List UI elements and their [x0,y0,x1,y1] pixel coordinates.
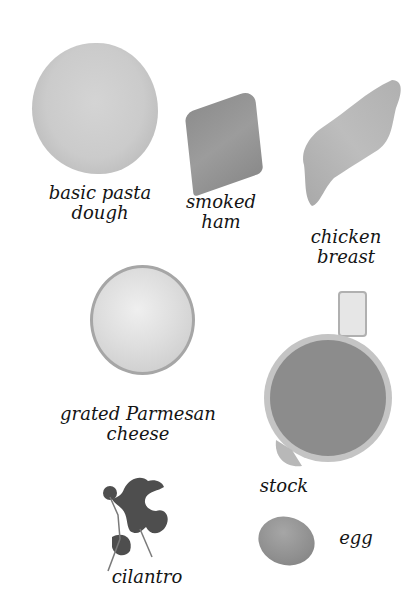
chicken-breast-image [296,80,406,210]
pasta-dough-label: basic pasta dough [20,183,180,223]
egg-label: egg [336,528,376,548]
cilantro-label: cilantro [102,567,192,587]
stock-label: stock [252,476,316,496]
pasta-dough-image [32,43,158,174]
smoked-ham-image [185,89,264,197]
egg-image [252,509,321,572]
parmesan-image [90,265,195,375]
chicken-breast-label: chicken breast [296,227,396,267]
stock-jug-image [262,290,394,472]
cilantro-image [100,475,180,575]
parmesan-label: grated Parmesan cheese [38,404,238,444]
smoked-ham-label: smoked ham [176,192,266,232]
